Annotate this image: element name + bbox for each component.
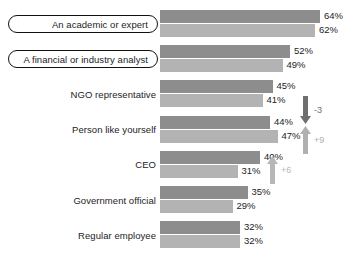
bar-group: 35%29%	[160, 186, 360, 216]
bar-value-label: 32%	[244, 234, 263, 247]
bar-value-label: 41%	[267, 93, 286, 106]
chart-row: Regular employee32%32%	[0, 219, 360, 251]
arrow-up-icon	[267, 156, 278, 184]
bar-series-2	[160, 24, 315, 37]
category-label: Regular employee	[8, 219, 158, 251]
bar-series-2	[160, 200, 233, 213]
change-annotation-label: -3	[314, 106, 322, 115]
bar-value-label: 35%	[252, 185, 271, 198]
chart-row: A financial or industry analyst52%49%	[0, 43, 360, 75]
bar-group: 45%41%	[160, 80, 360, 110]
bar-value-label: 49%	[287, 58, 306, 71]
category-label: NGO representative	[8, 78, 158, 110]
change-annotation: -3	[300, 96, 322, 124]
bar-group: 64%62%	[160, 10, 360, 40]
bar-value-label: 64%	[324, 9, 343, 22]
category-label: Person like yourself	[8, 114, 158, 146]
bar-series-1	[160, 221, 240, 234]
bar-value-label: 47%	[282, 129, 301, 142]
bar-series-1	[160, 45, 290, 58]
bar-series-1	[160, 10, 320, 23]
bar-group: 40%31%	[160, 151, 360, 181]
arrow-down-icon	[300, 96, 311, 124]
chart-row: An academic or expert64%62%	[0, 8, 360, 40]
bar-series-1	[160, 80, 273, 93]
bar-series-2	[160, 59, 283, 72]
change-annotation-label: +6	[281, 166, 291, 175]
bar-value-label: 29%	[237, 199, 256, 212]
bar-value-label: 45%	[277, 79, 296, 92]
arrow-up-icon	[300, 126, 311, 154]
change-annotation-label: +9	[314, 136, 324, 145]
bar-value-label: 62%	[319, 23, 338, 36]
bar-series-2	[160, 94, 263, 107]
chart-row: Government official35%29%	[0, 184, 360, 216]
bar-group: 52%49%	[160, 45, 360, 75]
bar-series-2	[160, 130, 278, 143]
bar-group: 32%32%	[160, 221, 360, 251]
category-label-highlighted: A financial or industry analyst	[8, 50, 158, 68]
change-annotation: +9	[300, 126, 324, 154]
bar-series-1	[160, 186, 248, 199]
category-label: CEO	[8, 149, 158, 181]
bar-value-label: 44%	[274, 115, 293, 128]
bar-series-1	[160, 151, 260, 164]
category-label-highlighted: An academic or expert	[8, 15, 158, 33]
bar-series-2	[160, 165, 238, 178]
bar-group: 44%47%	[160, 116, 360, 146]
change-annotation: +6	[267, 156, 291, 184]
category-label: Government official	[8, 184, 158, 216]
bar-value-label: 32%	[244, 220, 263, 233]
bar-series-2	[160, 235, 240, 248]
bar-value-label: 31%	[242, 164, 261, 177]
bar-series-1	[160, 116, 270, 129]
bar-value-label: 52%	[294, 44, 313, 57]
bar-chart: An academic or expert64%62%A financial o…	[0, 0, 360, 262]
